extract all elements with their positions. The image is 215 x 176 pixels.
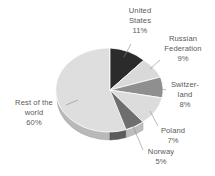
pie-label-poland-line1: Poland (148, 126, 198, 136)
pie-label-united-states: United States 11% (112, 6, 168, 37)
pie-label-norway: Norway 5% (136, 147, 186, 167)
pie-label-rest-of-world-line2: world (2, 108, 66, 118)
pie-label-poland-value: 7% (148, 136, 198, 146)
pie-label-switzerland-line1: Switzer- (158, 80, 212, 90)
pie-label-united-states-line2: States (112, 16, 168, 26)
pie-label-rest-of-world-value: 60% (2, 118, 66, 128)
pie-label-united-states-line1: United (112, 6, 168, 16)
pie-slices (56, 48, 163, 132)
pie-label-rest-of-world: Rest of the world 60% (2, 98, 66, 129)
pie-label-poland: Poland 7% (148, 126, 198, 146)
pie-label-rest-of-world-line1: Rest of the (2, 98, 66, 108)
pie-label-russian-federation-value: 9% (152, 54, 214, 64)
pie-label-russian-federation-line1: Russian (152, 34, 214, 44)
pie-label-russian-federation-line2: Federation (152, 44, 214, 54)
pie-label-switzerland-line2: land (158, 90, 212, 100)
pie-label-norway-line1: Norway (136, 147, 186, 157)
pie-chart: United States 11% Russian Federation 9% … (0, 0, 215, 176)
pie-label-switzerland-value: 8% (158, 100, 212, 110)
pie-label-switzerland: Switzer- land 8% (158, 80, 212, 111)
pie-label-norway-value: 5% (136, 157, 186, 167)
pie-label-russian-federation: Russian Federation 9% (152, 34, 214, 65)
